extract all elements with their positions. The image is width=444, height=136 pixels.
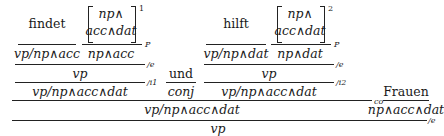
lexical-rule-und (166, 82, 196, 83)
hypothesis-2-index: 2 (328, 4, 333, 13)
projection-rule-1 (82, 44, 142, 45)
hypothesis-2-top: np∧ (287, 7, 312, 21)
coordination-rule (12, 100, 372, 101)
word-und: und (169, 67, 193, 81)
rule-label-e-right: /e (336, 60, 343, 69)
lexical-rule-frauen (383, 100, 429, 101)
result-coordination: vp/np∧acc∧dat (144, 103, 240, 117)
rule-label-i1: /i1 (147, 78, 157, 87)
intro-rule-left (15, 82, 145, 83)
rule-label-i2: /i2 (336, 78, 346, 87)
hypothesis-2-category: np∧dat (277, 47, 323, 61)
result-left-conjunct: vp/np∧acc∧dat (32, 85, 128, 99)
word-hilft: hilft (223, 17, 249, 31)
hypothesis-2-bottom: acc∧dat (274, 24, 325, 38)
elim-rule-left (15, 64, 145, 65)
rule-label-p-1: P (145, 40, 150, 49)
result-right-conjunct: vp/np∧acc∧dat (221, 85, 317, 99)
rule-label-p-2: P (334, 40, 339, 49)
result-vp-right: vp (261, 67, 276, 81)
hypothesis-1-top: np∧ (98, 7, 123, 21)
rule-label-e-final: /e (428, 116, 435, 125)
category-conj: conj (168, 85, 194, 99)
rule-label-e-left: /e (147, 60, 154, 69)
hypothesis-1-bottom: acc∧dat (85, 24, 136, 38)
word-findet: findet (29, 17, 66, 31)
intro-rule-right (204, 82, 334, 83)
result-vp-left: vp (72, 67, 87, 81)
word-frauen: Frauen (383, 85, 429, 99)
lexical-rule-hilft (206, 44, 266, 45)
projection-rule-2 (271, 44, 331, 45)
lexical-rule-findet (18, 44, 76, 45)
elim-rule-right (204, 64, 334, 65)
category-findet: vp/np∧acc (14, 47, 80, 61)
final-result-vp: vp (210, 122, 225, 136)
hypothesis-1-index: 1 (139, 4, 144, 13)
category-hilft: vp/np∧dat (204, 47, 269, 61)
category-frauen: np∧acc∧dat (368, 103, 444, 117)
hypothesis-1-category: np∧acc (88, 47, 135, 61)
